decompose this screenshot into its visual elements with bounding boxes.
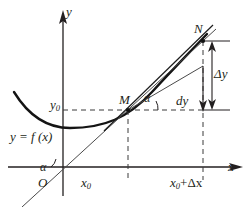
x0-plus-delta-x-label: x0+Δx xyxy=(170,176,202,191)
alpha-label-origin: α xyxy=(40,161,46,173)
dy-bracket xyxy=(199,66,207,112)
dy-slope-line xyxy=(128,66,203,110)
x-axis-label: x xyxy=(228,160,234,173)
alpha-label-at-M: α xyxy=(144,92,150,104)
angle-arcs xyxy=(51,101,158,167)
alpha-arc-origin xyxy=(51,159,56,167)
function-label: y = f (x) xyxy=(10,130,52,143)
x0-label: x0 xyxy=(81,176,91,191)
point-M-dot xyxy=(126,108,130,112)
origin-label: O xyxy=(38,176,47,189)
y0-label: y0 xyxy=(50,98,60,113)
dy-label: dy xyxy=(176,94,188,107)
tangent-line-at-M xyxy=(104,25,213,131)
alpha-arc-at-M xyxy=(156,101,158,110)
point-M-label: M xyxy=(119,93,130,106)
y-axis-label: y xyxy=(66,5,72,18)
y0-label-sub: 0 xyxy=(56,103,60,113)
delta-y-label: Δy xyxy=(214,67,227,80)
x0-plus-delta-x-tail: +Δx xyxy=(180,175,202,190)
x0-label-sub: 0 xyxy=(87,181,91,191)
differential-geometry-figure: y x O y0 x0 x0+Δx M N y = f (x) dy Δy α … xyxy=(0,0,250,207)
point-N-dot xyxy=(201,39,205,43)
point-N-label: N xyxy=(194,22,203,35)
